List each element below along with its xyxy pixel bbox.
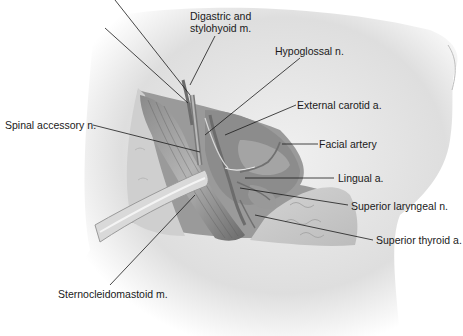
neck-dissection-drawing [0,0,463,336]
label-digastric-line1: Digastric and [190,10,251,22]
label-facial-artery: Facial artery [319,138,377,150]
label-hypoglossal-nerve: Hypoglossal n. [275,45,344,57]
label-digastric-stylohyoid: Digastric and stylohyoid m. [190,10,251,34]
label-sternocleidomastoid-muscle: Sternocleidomastoid m. [58,288,168,300]
label-digastric-line2: stylohyoid m. [190,22,251,34]
label-superior-thyroid-artery: Superior thyroid a. [376,234,462,246]
label-spinal-accessory-nerve: Spinal accessory n. [5,119,96,131]
label-external-carotid-artery: External carotid a. [297,99,382,111]
label-superior-laryngeal-nerve: Superior laryngeal n. [351,200,448,212]
label-lingual-artery: Lingual a. [338,172,384,184]
anatomical-illustration: Digastric and stylohyoid m. Hypoglossal … [0,0,463,336]
